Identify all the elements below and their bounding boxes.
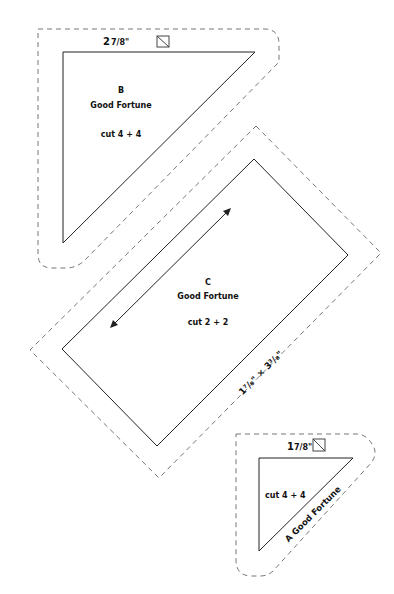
- piece-b-letter: B: [118, 86, 124, 95]
- piece-c-cut-count: cut 2 + 2: [188, 318, 228, 327]
- piece-c-cut-line: [62, 159, 348, 446]
- piece-c-name: Good Fortune: [177, 292, 239, 301]
- piece-c-letter: C: [205, 278, 211, 287]
- piece-b-cut-line: [63, 52, 255, 243]
- quilt-template-sheet: 2 7/8" B Good Fortune cut 4 + 4 C Good F…: [0, 0, 394, 594]
- double-arrow-icon: [110, 208, 231, 328]
- piece-c: C Good Fortune cut 2 + 2 1⁷/₈" × 3³/₈": [30, 126, 381, 478]
- piece-c-size-label: 1⁷/₈" × 3³/₈": [237, 349, 285, 397]
- piece-a-size-frac: 7/8": [294, 443, 312, 452]
- piece-b-name: Good Fortune: [90, 101, 152, 110]
- piece-b-size-frac: 7/8": [111, 38, 129, 47]
- piece-b-size-whole: 2: [103, 36, 110, 47]
- piece-a-cut-count: cut 4 + 4: [265, 491, 306, 500]
- piece-b: 2 7/8" B Good Fortune cut 4 + 4: [38, 29, 279, 268]
- piece-a-size-whole: 1: [287, 441, 294, 452]
- half-square-triangle-icon: [313, 439, 325, 451]
- half-square-triangle-icon: [157, 36, 169, 47]
- piece-a: 1 7/8" cut 4 + 4 A Good Fortune: [236, 434, 375, 576]
- piece-b-cut-count: cut 4 + 4: [101, 130, 142, 139]
- piece-a-cut-line: [259, 458, 353, 551]
- piece-c-seam-allowance: [30, 126, 381, 478]
